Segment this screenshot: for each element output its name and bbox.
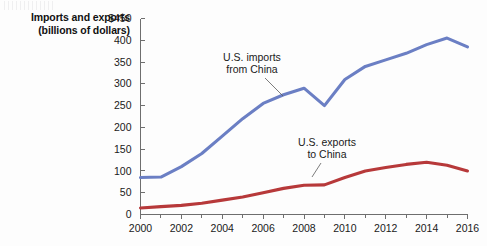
y-axis-tick-marks [141, 19, 145, 193]
x-tick-label: 2012 [374, 222, 398, 234]
x-tick-label: 2002 [170, 222, 194, 234]
y-tick-label: 350 [114, 56, 132, 68]
series-line-imports [141, 38, 468, 177]
x-tick-label: 2010 [333, 222, 357, 234]
annotation-imports-line-2: from China [226, 63, 278, 75]
x-tick-label: 2014 [415, 222, 439, 234]
y-tick-label: 200 [114, 121, 132, 133]
annotation-exports-line-1: U.S. exports [298, 136, 356, 148]
x-tick-label: 2000 [129, 222, 153, 234]
y-tick-label: 400 [114, 34, 132, 46]
series-line-exports [141, 162, 468, 208]
y-tick-label: 150 [114, 143, 132, 155]
chart-figure: Imports and exports (billions of dollars… [0, 0, 487, 246]
leader-line-exports [312, 163, 321, 177]
annotation-imports-line-1: U.S. imports [223, 51, 281, 63]
x-tick-label: 2006 [251, 222, 275, 234]
y-tick-label: 300 [114, 77, 132, 89]
y-axis-tick-labels: $450400350300250200150100500 [108, 12, 132, 220]
y-tick-label: 50 [120, 186, 132, 198]
y-tick-label: 0 [126, 208, 132, 220]
annotation-exports-line-2: to China [307, 148, 346, 160]
x-tick-label: 2004 [211, 222, 235, 234]
x-axis-tick-marks [141, 215, 468, 219]
x-tick-label: 2008 [292, 222, 316, 234]
y-tick-label: $450 [108, 12, 132, 24]
x-tick-label: 2016 [456, 222, 480, 234]
y-tick-label: 250 [114, 99, 132, 111]
leader-line-imports [265, 78, 283, 96]
y-tick-label: 100 [114, 165, 132, 177]
line-chart-plot: $450400350300250200150100500 20002002200… [0, 0, 487, 246]
x-axis-tick-labels: 200020022004200620082010201220142016 [129, 222, 480, 234]
